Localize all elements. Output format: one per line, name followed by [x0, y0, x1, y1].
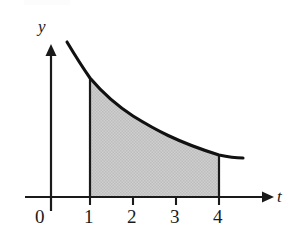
y-axis-arrowhead-icon: [46, 44, 57, 56]
figure-container: y t 0 1 2 3 4: [0, 0, 297, 239]
x-tick-label-4: 4: [213, 207, 223, 226]
x-axis-label: t: [277, 188, 282, 205]
x-tick-label-3: 3: [170, 207, 180, 226]
x-tick-label-2: 2: [127, 207, 137, 226]
x-axis-arrowhead-icon: [262, 192, 274, 203]
origin-label: 0: [35, 207, 45, 226]
y-axis-label: y: [38, 18, 46, 35]
x-tick-label-1: 1: [84, 207, 94, 226]
